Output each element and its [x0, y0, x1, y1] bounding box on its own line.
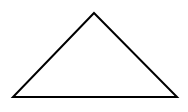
triangle-diagram	[0, 0, 188, 112]
triangle-shape	[13, 13, 177, 97]
